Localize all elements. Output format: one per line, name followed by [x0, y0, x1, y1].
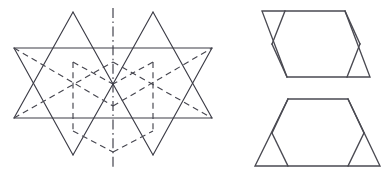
- hexagon-lower-right-cut: [347, 44, 360, 77]
- hexagon-left-cut: [272, 133, 288, 166]
- hexagon-right-edge: [345, 11, 360, 44]
- trapezoid-outline: [255, 99, 380, 166]
- geometric-drawing-svg: [0, 0, 389, 176]
- hexagon-right-cut: [348, 133, 364, 166]
- rhombus-outline: [262, 11, 370, 77]
- hexagon-left-edge: [272, 44, 287, 77]
- bottom-right-figure-group: [255, 99, 380, 166]
- left-triangle-down-leg: [73, 84, 113, 155]
- hexagon-upper-left-cut: [272, 11, 285, 44]
- left-figure-group: [14, 8, 212, 168]
- hexagon-right-edge: [348, 99, 364, 133]
- hidden-bottom-right-edge: [113, 131, 153, 152]
- top-right-figure-group: [262, 11, 370, 77]
- hidden-bottom-left-edge: [73, 131, 113, 152]
- figure-canvas: [0, 0, 389, 176]
- hexagon-left-edge: [272, 99, 288, 133]
